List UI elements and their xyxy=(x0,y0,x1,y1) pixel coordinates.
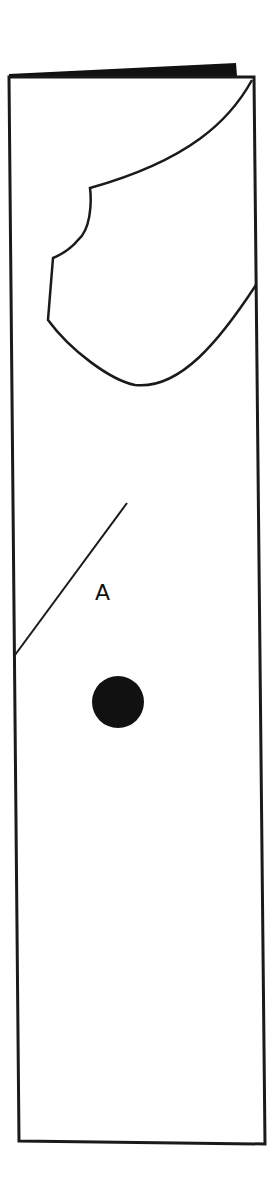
punched-hole xyxy=(92,676,144,728)
cut-out-shape xyxy=(48,80,256,385)
diagram-canvas: A xyxy=(0,0,280,1201)
diagonal-cut-line xyxy=(15,503,127,655)
label-a: A xyxy=(95,580,110,605)
